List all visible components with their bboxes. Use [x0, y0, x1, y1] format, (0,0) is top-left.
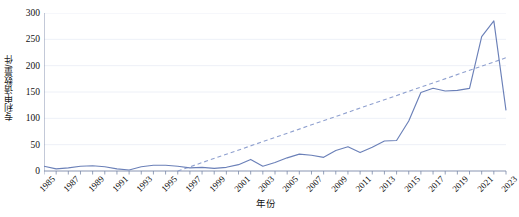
- x-tick-label: 1989: [86, 174, 106, 194]
- x-tick-label: 2013: [378, 174, 398, 194]
- x-tick-label: 2007: [305, 174, 325, 194]
- y-tick-label: 250: [14, 34, 40, 44]
- x-tick-label: 2001: [232, 174, 252, 194]
- plot-area: [44, 13, 506, 171]
- y-tick-label: 0: [14, 166, 40, 176]
- y-tick-label: 150: [14, 87, 40, 97]
- x-tick-label: 2009: [329, 174, 349, 194]
- x-tick-label: 1997: [183, 174, 203, 194]
- x-tick-label: 2021: [475, 174, 495, 194]
- data-series-line: [44, 21, 506, 170]
- x-tick-label: 2005: [280, 174, 300, 194]
- y-tick-label: 50: [14, 140, 40, 150]
- x-tick-label: 2011: [354, 174, 374, 194]
- x-tick-label: 1987: [62, 174, 82, 194]
- y-tick-label: 100: [14, 113, 40, 123]
- chart-svg: [44, 13, 512, 181]
- x-tick-label: 2019: [451, 174, 471, 194]
- x-tick-label: 1995: [159, 174, 179, 194]
- x-tick-label: 1985: [37, 174, 57, 194]
- x-axis-title: 年份: [256, 196, 276, 210]
- y-tick-label: 300: [14, 8, 40, 18]
- x-tick-label: 1999: [207, 174, 227, 194]
- trend-line: [178, 58, 506, 171]
- x-tick-label: 2015: [402, 174, 422, 194]
- x-tick-label: 1991: [110, 174, 130, 194]
- y-axis-tick-labels: 050100150200250300: [12, 0, 40, 217]
- y-tick-label: 200: [14, 61, 40, 71]
- x-tick-label: 2017: [426, 174, 446, 194]
- x-tick-label: 1993: [135, 174, 155, 194]
- x-tick-label: 2003: [256, 174, 276, 194]
- x-tick-label: 2023: [499, 174, 519, 194]
